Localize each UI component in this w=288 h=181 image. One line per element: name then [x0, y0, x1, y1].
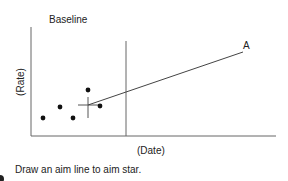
- data-point: [86, 88, 91, 93]
- data-point: [98, 104, 103, 109]
- data-point: [71, 116, 76, 121]
- aim-line: [88, 52, 243, 105]
- y-axis-label: (Rate): [16, 65, 26, 99]
- caption: Draw an aim line to aim star.: [15, 165, 141, 175]
- phase-title: Baseline: [49, 15, 87, 25]
- x-axis-label: (Date): [137, 146, 165, 156]
- aim-star-label: A: [243, 41, 250, 51]
- data-point: [41, 116, 46, 121]
- data-point: [58, 105, 63, 110]
- bullet-icon: [0, 175, 4, 181]
